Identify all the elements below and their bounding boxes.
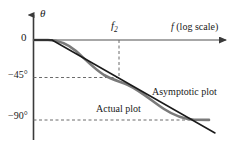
y-tick-label-minus90: −90° [8,111,28,121]
x-marker-label-f2: f2 [111,20,118,34]
bode-phase-plot-figure: θ 0 −45° −90° f2 f (log scale) Asymptoti… [0,0,240,148]
actual-plot-label: Actual plot [96,104,141,114]
y-tick-label-0: 0 [21,32,27,43]
y-axis-label: θ [40,8,45,19]
asymptotic-plot-label: Asymptotic plot [152,87,217,97]
x-axis-scale-note: (log scale) [174,21,218,32]
f2-subscript: 2 [114,25,118,34]
y-tick-label-minus45: −45° [8,70,28,80]
x-axis-label: f (log scale) [171,22,218,32]
